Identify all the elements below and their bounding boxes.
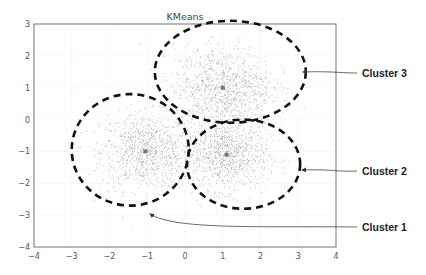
y-tick-label: −3 [18, 211, 30, 220]
cluster-boundary-ellipse [72, 94, 189, 206]
x-tick-label: −2 [104, 252, 116, 261]
x-axis-ticks: −4−3−2−101234 [28, 252, 338, 261]
y-tick-label: 3 [25, 20, 30, 29]
y-axis-ticks: 3210−1−2−3−4 [18, 20, 30, 252]
x-tick-label: 2 [258, 252, 263, 261]
cluster-2-label: Cluster 2 [362, 165, 407, 177]
cluster-center-marker [221, 86, 225, 90]
y-tick-label: 0 [25, 116, 30, 125]
cluster-2-arrow [302, 170, 357, 171]
x-tick-label: 1 [220, 252, 225, 261]
x-tick-label: −4 [28, 252, 40, 261]
y-tick-label: −1 [18, 147, 30, 156]
plot-frame [34, 24, 336, 247]
chart-title: KMeans [166, 11, 203, 22]
y-tick-label: −4 [18, 243, 30, 252]
cluster-boundaries [72, 21, 306, 209]
cluster-1-label: Cluster 1 [362, 221, 407, 233]
x-tick-label: −3 [66, 252, 78, 261]
cluster-3-arrow [303, 72, 357, 73]
x-tick-label: −1 [141, 252, 153, 261]
cluster-boundary-ellipse [155, 21, 306, 123]
cluster-center-marker [143, 149, 147, 153]
kmeans-chart: KMeans −4−3−2−101234 3210−1−2−3−4 Cluste… [0, 0, 426, 275]
cluster-center-marker [225, 153, 229, 157]
cluster-3-label: Cluster 3 [362, 67, 407, 79]
x-tick-label: 3 [296, 252, 301, 261]
y-tick-label: 2 [25, 52, 30, 61]
grid [34, 24, 336, 247]
y-tick-label: −2 [18, 179, 30, 188]
cluster-1-arrow [150, 214, 357, 227]
y-tick-label: 1 [25, 84, 30, 93]
x-tick-label: 4 [333, 252, 338, 261]
cluster-boundary-ellipse [187, 120, 300, 209]
x-tick-label: 0 [182, 252, 187, 261]
